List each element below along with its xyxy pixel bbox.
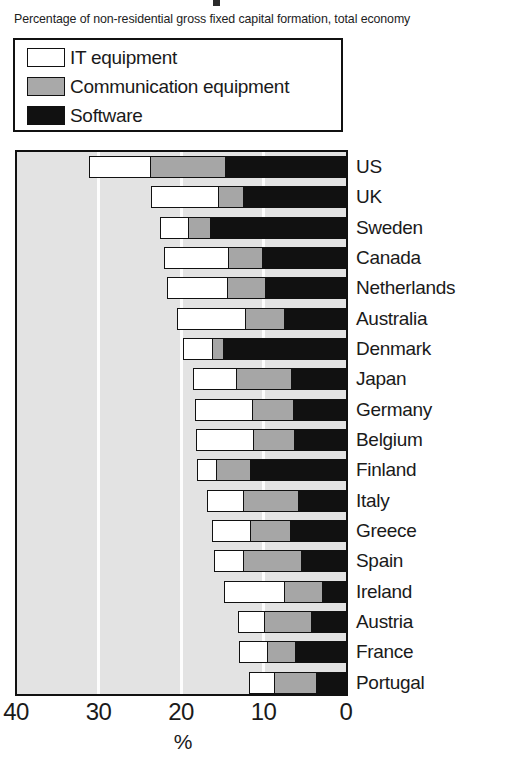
bar-segment-it-equipment[interactable]: [194, 369, 236, 389]
bar-segment-software[interactable]: [291, 521, 345, 541]
bar-segment-software[interactable]: [292, 369, 345, 389]
bar-segment-it-equipment[interactable]: [196, 400, 253, 420]
bar-segment-software[interactable]: [226, 157, 345, 177]
stacked-bar[interactable]: [195, 399, 346, 421]
bar-segment-it-equipment[interactable]: [197, 430, 254, 450]
bar-segment-it-equipment[interactable]: [240, 642, 268, 662]
bar-segment-it-equipment[interactable]: [184, 339, 213, 359]
category-label: Netherlands: [356, 278, 455, 297]
bar-segment-communication-equipment[interactable]: [268, 642, 296, 662]
bar-row: [17, 455, 346, 485]
bar-segment-communication-equipment[interactable]: [275, 673, 317, 693]
stacked-bar[interactable]: [212, 520, 346, 542]
bar-segment-communication-equipment[interactable]: [189, 218, 211, 238]
bar-segment-software[interactable]: [224, 339, 345, 359]
stacked-bar[interactable]: [193, 368, 346, 390]
bar-segment-communication-equipment[interactable]: [244, 491, 299, 511]
stacked-bar[interactable]: [183, 338, 346, 360]
bar-segment-it-equipment[interactable]: [213, 521, 251, 541]
stacked-bar[interactable]: [167, 277, 346, 299]
bar-segment-software[interactable]: [244, 187, 345, 207]
category-label: Australia: [356, 309, 427, 328]
bar-row: [17, 273, 346, 303]
x-axis-label: %: [174, 731, 193, 752]
bar-segment-it-equipment[interactable]: [161, 218, 189, 238]
bar-segment-communication-equipment[interactable]: [213, 339, 224, 359]
bar-segment-communication-equipment[interactable]: [237, 369, 292, 389]
black-square-icon: [27, 106, 65, 125]
bar-segment-communication-equipment[interactable]: [229, 248, 262, 268]
bar-row: [17, 334, 346, 364]
bar-segment-software[interactable]: [251, 460, 345, 480]
bar-segment-software[interactable]: [294, 400, 345, 420]
bar-segment-communication-equipment[interactable]: [285, 582, 323, 602]
stacked-bar[interactable]: [207, 490, 346, 512]
bar-segment-it-equipment[interactable]: [208, 491, 245, 511]
bar-segment-it-equipment[interactable]: [165, 248, 229, 268]
bar-row: [17, 607, 346, 637]
category-label: Greece: [356, 521, 417, 540]
bar-row: [17, 577, 346, 607]
stacked-bar[interactable]: [164, 247, 346, 269]
category-label: Spain: [356, 551, 403, 570]
legend-label-communication-equipment: Communication equipment: [70, 77, 289, 96]
legend-item-communication-equipment: Communication equipment: [27, 73, 289, 99]
bar-segment-communication-equipment[interactable]: [219, 187, 243, 207]
bar-segment-software[interactable]: [295, 430, 345, 450]
bar-segment-software[interactable]: [285, 309, 345, 329]
cut-off-title-fragment: [213, 0, 220, 6]
bar-segment-communication-equipment[interactable]: [228, 278, 266, 298]
bar-segment-it-equipment[interactable]: [198, 460, 218, 480]
stacked-bar[interactable]: [151, 186, 346, 208]
bar-segment-it-equipment[interactable]: [225, 582, 285, 602]
x-tick-30: 30: [86, 700, 112, 724]
bar-segment-it-equipment[interactable]: [215, 551, 244, 571]
bar-segment-it-equipment[interactable]: [178, 309, 246, 329]
bar-row: [17, 364, 346, 394]
bar-segment-communication-equipment[interactable]: [265, 612, 312, 632]
bar-segment-software[interactable]: [296, 642, 345, 662]
bar-segment-it-equipment[interactable]: [152, 187, 219, 207]
bar-segment-it-equipment[interactable]: [250, 673, 275, 693]
bar-segment-software[interactable]: [302, 551, 345, 571]
bar-segment-communication-equipment[interactable]: [246, 309, 285, 329]
bar-segment-it-equipment[interactable]: [239, 612, 265, 632]
bar-segment-communication-equipment[interactable]: [251, 521, 292, 541]
bar-segment-software[interactable]: [266, 278, 345, 298]
stacked-bar[interactable]: [224, 581, 346, 603]
bar-segment-software[interactable]: [263, 248, 345, 268]
x-tick-20: 20: [168, 700, 194, 724]
bar-segment-it-equipment[interactable]: [90, 157, 151, 177]
category-label: UK: [356, 187, 382, 206]
category-label: Canada: [356, 248, 421, 267]
bar-row: [17, 486, 346, 516]
stacked-bar[interactable]: [239, 641, 346, 663]
bar-segment-communication-equipment[interactable]: [244, 551, 302, 571]
stacked-bar[interactable]: [89, 156, 346, 178]
stacked-bar[interactable]: [160, 217, 346, 239]
chart-legend: IT equipment Communication equipment Sof…: [13, 38, 343, 132]
bar-segment-communication-equipment[interactable]: [254, 430, 295, 450]
bar-segment-software[interactable]: [323, 582, 345, 602]
bar-row: [17, 425, 346, 455]
bar-row: [17, 516, 346, 546]
bar-segment-software[interactable]: [312, 612, 345, 632]
category-label: Germany: [356, 400, 432, 419]
bar-segment-software[interactable]: [317, 673, 345, 693]
legend-label-it-equipment: IT equipment: [70, 48, 177, 67]
category-label: Ireland: [356, 582, 412, 601]
stacked-bar[interactable]: [214, 550, 346, 572]
legend-item-it-equipment: IT equipment: [27, 44, 177, 70]
stacked-bar[interactable]: [249, 672, 346, 694]
bar-segment-communication-equipment[interactable]: [217, 460, 250, 480]
bar-segment-communication-equipment[interactable]: [253, 400, 294, 420]
stacked-bar[interactable]: [196, 429, 346, 451]
stacked-bar[interactable]: [197, 459, 346, 481]
bar-segment-software[interactable]: [211, 218, 345, 238]
bar-segment-software[interactable]: [299, 491, 345, 511]
stacked-bar[interactable]: [238, 611, 346, 633]
stacked-bar[interactable]: [177, 308, 346, 330]
bar-row: [17, 152, 346, 182]
bar-segment-communication-equipment[interactable]: [151, 157, 226, 177]
bar-segment-it-equipment[interactable]: [168, 278, 228, 298]
